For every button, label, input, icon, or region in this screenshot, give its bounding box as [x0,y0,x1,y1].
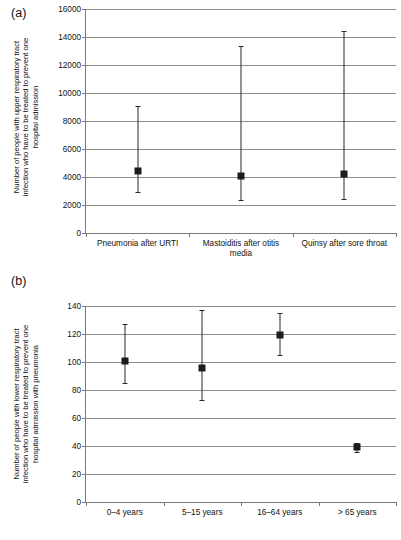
error-bar-cap [277,355,282,356]
data-point-marker [121,357,128,364]
data-point-marker [354,444,361,451]
data-point-marker [238,173,245,180]
y-axis-tick-label: 12000 [58,61,81,70]
chart-a-plot-area: 0200040006000800010000120001400016000 Pn… [85,9,396,233]
x-axis-category-label: Pneumonia after URTI [88,239,188,249]
error-bar-cap [342,31,347,32]
x-axis-tick [189,233,190,237]
error-bar [124,324,125,383]
y-axis-tick-label: 0 [76,229,81,238]
x-axis-category-label: 0–4 years [87,508,163,518]
x-axis-tick [396,233,397,237]
error-bar [202,310,203,400]
data-point-marker [134,168,141,175]
error-bar-cap [122,383,127,384]
y-axis-tick-label: 140 [67,302,81,311]
error-bar-cap [342,199,347,200]
y-axis-title-line: infection who have to be treated to prev… [21,6,30,228]
x-axis-category-label: Quinsy after sore throat [294,239,394,249]
error-bar-cap [239,46,244,47]
panel-b-y-axis-title: Number of people with lower respiratory … [12,286,40,522]
y-axis-tick-label: 4000 [63,173,81,182]
panel-b: (b) Number of people with lower respirat… [0,268,401,540]
y-axis-title-line: Number of people with lower respiratory … [12,286,21,522]
x-axis-category-label: Mastoiditis after otitis media [191,239,291,259]
y-axis-tick-label: 16000 [58,5,81,14]
x-axis-category-label: > 65 years [319,508,395,518]
data-point-marker [199,364,206,371]
y-axis-tick-label: 14000 [58,33,81,42]
y-axis-tick-label: 100 [67,358,81,367]
error-bar-cap [277,313,282,314]
y-axis-title-line: Number of people with upper respiratory … [12,6,21,228]
error-bar [137,106,138,193]
y-axis-tick-label: 80 [72,386,81,395]
error-bar-cap [200,400,205,401]
data-point-marker [341,170,348,177]
y-axis-tick-label: 10000 [58,89,81,98]
x-axis-tick [86,502,87,506]
error-bar-cap [355,452,360,453]
x-axis-tick [164,502,165,506]
chart-a-axes: 0200040006000800010000120001400016000 Pn… [85,9,396,233]
error-bar-cap [122,324,127,325]
y-axis-tick-label: 120 [67,330,81,339]
error-bar-cap [135,106,140,107]
y-axis-tick-label: 0 [76,498,81,507]
y-axis-title-line: infection who have to be treated to prev… [21,286,30,522]
y-axis-title-line: hospital admission [31,6,40,228]
y-axis-tick-label: 40 [72,442,81,451]
gridline [86,233,396,234]
x-axis-category-label: 5–15 years [164,508,240,518]
panel-a: (a) Number of people with upper respirat… [0,0,401,268]
chart-a-data-series [86,9,396,233]
y-axis-title-line: hospital admission with pneumonia [31,286,40,522]
error-bar-cap [239,200,244,201]
y-axis-tick-label: 2000 [63,201,81,210]
x-axis-tick [86,233,87,237]
chart-b-plot-area: 020406080100120140 0–4 years5–15 years16… [85,306,396,502]
chart-b-data-series [86,306,396,502]
y-axis-tick-label: 8000 [63,117,81,126]
error-bar-cap [200,310,205,311]
chart-b-axes: 020406080100120140 0–4 years5–15 years16… [85,306,396,502]
y-axis-tick-label: 60 [72,414,81,423]
x-axis-tick [241,502,242,506]
data-point-marker [276,332,283,339]
y-axis-tick-label: 20 [72,470,81,479]
x-axis-tick [319,502,320,506]
x-axis-category-label: 16–64 years [242,508,318,518]
x-axis-tick [293,233,294,237]
y-axis-tick-label: 6000 [63,145,81,154]
panel-a-y-axis-title: Number of people with upper respiratory … [12,6,40,228]
x-axis-tick [396,502,397,506]
error-bar-cap [135,192,140,193]
